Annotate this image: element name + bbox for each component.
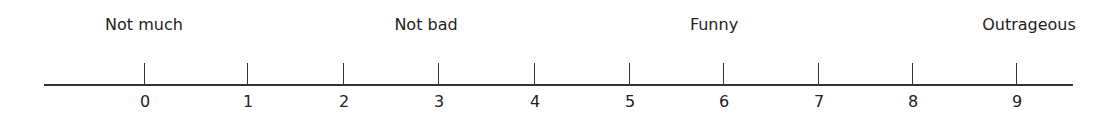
scale-axis-line [44, 84, 1073, 86]
tick-label: 0 [140, 92, 150, 111]
tick-mark [247, 63, 248, 85]
rating-scale: Not muchNot badFunnyOutrageous0123456789 [0, 0, 1116, 120]
anchor-label: Funny [690, 15, 738, 34]
tick-mark [438, 63, 439, 85]
tick-label: 8 [908, 92, 918, 111]
tick-label: 9 [1012, 92, 1022, 111]
tick-mark [912, 63, 913, 85]
anchor-label: Not bad [394, 15, 457, 34]
tick-label: 3 [434, 92, 444, 111]
tick-mark [818, 63, 819, 85]
tick-mark [144, 63, 145, 85]
tick-mark [534, 63, 535, 85]
anchor-label: Not much [105, 15, 183, 34]
tick-mark [1016, 63, 1017, 85]
tick-label: 7 [814, 92, 824, 111]
anchor-label: Outrageous [982, 15, 1076, 34]
tick-label: 1 [243, 92, 253, 111]
tick-label: 2 [339, 92, 349, 111]
tick-label: 6 [719, 92, 729, 111]
tick-mark [343, 63, 344, 85]
tick-label: 4 [530, 92, 540, 111]
tick-mark [723, 63, 724, 85]
tick-mark [629, 63, 630, 85]
tick-label: 5 [625, 92, 635, 111]
